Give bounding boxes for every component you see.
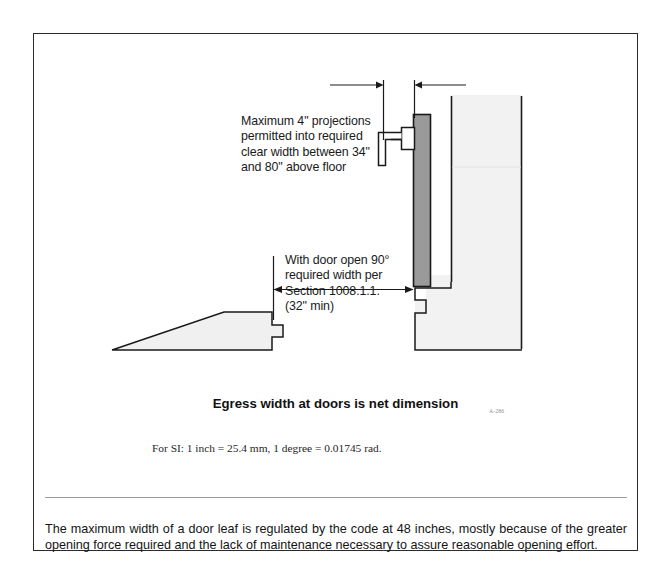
projection-annotation-text: Maximum 4" projections permitted into re…	[241, 114, 416, 176]
clear-width-annotation-text: With door open 90° required width per Se…	[285, 253, 445, 315]
page-root: Maximum 4" projections permitted into re…	[0, 0, 672, 579]
section-divider	[45, 497, 627, 498]
si-conversion-note: For SI: 1 inch = 25.4 mm, 1 degree = 0.0…	[152, 442, 382, 454]
figure-egress-width-diagram: Maximum 4" projections permitted into re…	[34, 34, 637, 474]
figure-caption: Egress width at doors is net dimension	[34, 396, 637, 411]
figure-code-label: A-286	[489, 408, 504, 414]
left-wall-section	[112, 312, 283, 350]
body-paragraph: The maximum width of a door leaf is regu…	[45, 521, 627, 554]
